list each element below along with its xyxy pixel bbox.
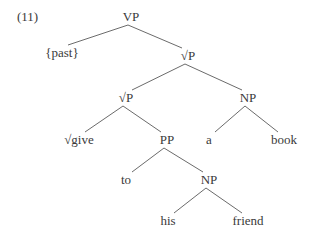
- tree-branch: [68, 25, 128, 45]
- tree-branch: [245, 106, 278, 132]
- node-root-give: √give: [64, 133, 94, 147]
- node-vp-root: VP: [123, 10, 140, 24]
- node-past: {past}: [45, 46, 78, 60]
- tree-branch: [123, 106, 161, 132]
- tree-branches: [0, 0, 316, 233]
- node-prep-to: to: [121, 173, 131, 187]
- node-np-object: NP: [240, 91, 257, 105]
- tree-branch: [85, 106, 123, 132]
- tree-branch: [164, 148, 203, 172]
- tree-branch: [215, 106, 245, 132]
- node-noun-book: book: [271, 133, 297, 147]
- syntax-tree-diagram: (11) VP {past} √P √P NP √give PP a book …: [0, 0, 316, 233]
- node-noun-friend: friend: [232, 214, 263, 228]
- node-det-a: a: [206, 133, 212, 147]
- node-det-his: his: [160, 214, 175, 228]
- tree-branch: [185, 64, 242, 90]
- tree-branch: [174, 188, 206, 213]
- tree-branch: [206, 188, 242, 213]
- tree-branch: [128, 25, 182, 48]
- tree-branch: [132, 64, 185, 90]
- node-np-goal: NP: [201, 173, 218, 187]
- node-pp: PP: [160, 133, 174, 147]
- tree-branch: [132, 148, 164, 172]
- node-root-phrase-top: √P: [181, 49, 195, 63]
- node-root-phrase-mid: √P: [119, 91, 133, 105]
